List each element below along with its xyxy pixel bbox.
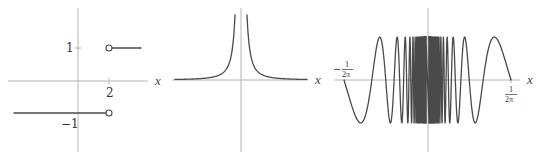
- fraction-denominator: 2π: [342, 70, 350, 79]
- x-tick-label-2: 2: [106, 86, 114, 100]
- inverse-square-chart: x: [172, 8, 321, 152]
- x-axis-label: x: [314, 72, 321, 87]
- curve-right-branch: [247, 15, 307, 79]
- fraction-numerator: 1: [345, 60, 349, 69]
- x-axis-label: x: [526, 72, 533, 87]
- x-tick-label-left: − 1 2π: [333, 60, 353, 79]
- y-tick-label-neg1: −1: [61, 117, 79, 131]
- sin-inverse-chart: x − 1 2π 1 2π: [333, 8, 533, 152]
- fraction-numerator: 1: [509, 85, 513, 94]
- x-axis-label: x: [154, 73, 161, 88]
- open-circle-upper: [106, 45, 112, 51]
- minus-sign: −: [333, 64, 341, 75]
- curve-left-branch: [175, 15, 235, 79]
- x-tick-label-right: 1 2π: [505, 85, 517, 104]
- fraction-denominator: 2π: [505, 95, 513, 104]
- step-function-chart: 1 −1 2 x: [8, 8, 161, 152]
- open-circle-lower: [106, 110, 112, 116]
- y-tick-label-1: 1: [66, 41, 74, 55]
- figure: 1 −1 2 x x x − 1 2π 1 2π: [0, 0, 543, 163]
